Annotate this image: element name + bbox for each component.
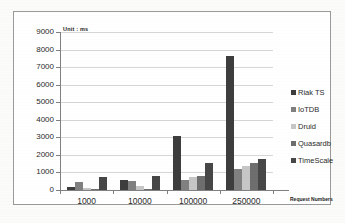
x-axis-tick-mark	[220, 190, 221, 194]
legend-item[interactable]: Riak TS	[291, 84, 343, 101]
y-axis-tick-label: 7000	[36, 63, 54, 71]
x-axis-tick-mark	[167, 190, 168, 194]
legend-swatch-icon	[291, 124, 296, 129]
x-axis-tick-label: 10000	[110, 196, 170, 206]
bar	[197, 176, 205, 190]
y-axis-tick-label: 5000	[36, 98, 54, 106]
x-axis-tick-mark	[273, 190, 274, 194]
x-axis-tick-label: 250000	[216, 196, 276, 206]
bar	[250, 163, 258, 190]
legend-item[interactable]: IoTDB	[291, 101, 343, 118]
bar-group	[226, 32, 266, 190]
bar-group	[173, 32, 213, 190]
bar	[120, 180, 128, 190]
bar	[136, 186, 144, 190]
x-axis-tick-mark	[60, 190, 61, 194]
y-axis-tick-label: 2000	[36, 151, 54, 159]
legend-item-label: Druid	[298, 122, 316, 131]
legend-swatch-icon	[291, 107, 296, 112]
y-axis-tick-label: 1000	[36, 168, 54, 176]
bar	[234, 169, 242, 190]
x-axis-tick-label: 100000	[163, 196, 223, 206]
legend-item-label: Riak TS	[298, 88, 325, 97]
bar	[128, 181, 136, 190]
bar	[67, 187, 75, 190]
y-axis-tick-label: 6000	[36, 81, 54, 89]
legend-swatch-icon	[291, 90, 296, 95]
bar	[152, 176, 160, 190]
bar	[144, 189, 152, 190]
bar	[189, 177, 197, 190]
bar	[242, 166, 250, 190]
plot-area	[60, 32, 273, 190]
bar-group	[120, 32, 160, 190]
bar	[258, 159, 266, 190]
bar	[181, 180, 189, 190]
bar	[75, 182, 83, 190]
legend-item[interactable]: Quasardb	[291, 135, 343, 152]
x-axis-title: Request Numbers	[290, 196, 333, 202]
bar-group	[67, 32, 107, 190]
bar	[205, 163, 213, 190]
y-axis-tick-labels: 9000800070006000500040003000200010000	[28, 12, 54, 212]
legend-item[interactable]: TimeScale	[291, 152, 343, 169]
legend-item-label: TimeScale	[298, 156, 333, 165]
y-axis-tick-label: 8000	[36, 46, 54, 54]
y-axis-tick-label: 4000	[36, 116, 54, 124]
x-axis-tick-mark	[113, 190, 114, 194]
bar	[83, 188, 91, 190]
y-axis-tick-label: 9000	[36, 28, 54, 36]
bar	[99, 177, 107, 190]
bar	[173, 136, 181, 190]
chart-figure: Unit : ms 900080007000600050004000300020…	[0, 0, 345, 223]
chart-frame: Unit : ms 900080007000600050004000300020…	[13, 11, 331, 205]
y-axis-tick-label: 3000	[36, 133, 54, 141]
x-axis-line	[60, 190, 289, 191]
chart-legend: Riak TSIoTDBDruidQuasardbTimeScale	[291, 84, 343, 169]
y-axis-tick-label: 0	[50, 186, 54, 194]
legend-item-label: Quasardb	[298, 139, 331, 148]
legend-item[interactable]: Druid	[291, 118, 343, 135]
bar	[91, 189, 99, 190]
legend-swatch-icon	[291, 158, 296, 163]
bar	[226, 56, 234, 190]
legend-item-label: IoTDB	[298, 105, 319, 114]
x-axis-tick-label: 1000	[57, 196, 117, 206]
legend-swatch-icon	[291, 141, 296, 146]
